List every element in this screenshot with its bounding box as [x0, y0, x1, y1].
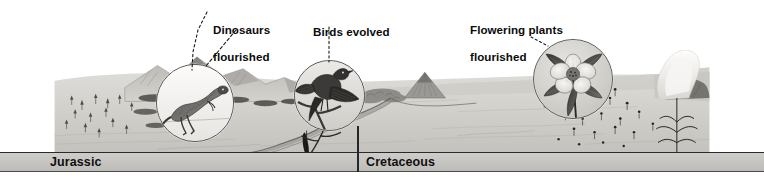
- callout-flowering-plants-line2: flourished: [470, 50, 563, 64]
- callout-flowering-plants: Flowering plants flourished: [470, 9, 563, 77]
- callout-dinosaurs-line1: Dinosaurs: [213, 23, 270, 37]
- callout-dinosaurs-line2: flourished: [213, 50, 270, 64]
- callout-birds: Birds evolved: [313, 11, 390, 52]
- callout-birds-line1: Birds evolved: [313, 25, 390, 39]
- callout-dinosaurs: Dinosaurs flourished: [213, 9, 270, 77]
- period-label-jurassic: Jurassic: [50, 153, 102, 172]
- period-divider: [357, 126, 359, 172]
- illustration-figure: Dinosaurs flourished Birds evolved Flowe…: [0, 0, 764, 182]
- period-label-cretaceous: Cretaceous: [366, 153, 435, 172]
- callout-flowering-plants-line1: Flowering plants: [470, 23, 563, 37]
